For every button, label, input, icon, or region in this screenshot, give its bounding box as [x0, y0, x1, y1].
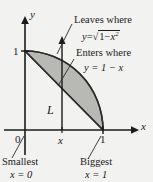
leader-line-leaves: [57, 24, 72, 54]
annotation-leaves-title: Leaves where: [74, 15, 132, 26]
figure-graphics: [0, 0, 153, 182]
x-axis-label: x: [141, 121, 146, 132]
y-axis-arrowhead: [21, 16, 29, 24]
annotation-leaves-equation: y=√1−x2: [82, 30, 120, 42]
figure-canvas: x y 1 0 x 1 L Leaves where y=√1−x2 Enter…: [0, 0, 153, 182]
leaves-eq-radicand: 1−x2: [98, 30, 119, 42]
x-axis-arrowhead: [131, 126, 139, 134]
annotation-enters-equation: y = 1 − x: [84, 63, 123, 74]
annotation-smallest-title: Smallest: [2, 157, 38, 168]
annotation-smallest-equation: x = 0: [10, 170, 32, 181]
x-tick-label-1: 1: [100, 134, 106, 145]
slice-label-L: L: [47, 104, 54, 116]
y-axis-label: y: [30, 9, 35, 20]
leaves-eq-exponent: 2: [115, 29, 119, 37]
annotation-enters-title: Enters where: [76, 48, 131, 59]
annotation-biggest-equation: x = 1: [85, 170, 107, 181]
y-tick-label-1: 1: [13, 46, 19, 57]
x-tick-label-x: x: [58, 135, 63, 146]
origin-label: 0: [15, 134, 21, 145]
annotation-biggest-title: Biggest: [80, 157, 112, 168]
